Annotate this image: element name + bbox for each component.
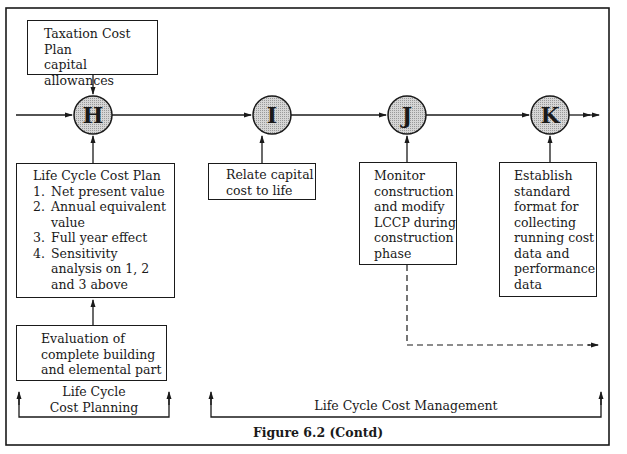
box-line: Monitor (374, 168, 456, 184)
box-line: and elemental part (41, 362, 166, 378)
lccp-item: 3.Full year effect (33, 230, 168, 246)
lccp-list: 1.Net present value 2.Annual equivalent … (33, 184, 168, 293)
lccp-title: Life Cycle Cost Plan (33, 168, 168, 184)
evaluation-box: Evaluation of complete building and elem… (16, 325, 167, 381)
lccp-item: 1.Net present value (33, 184, 168, 200)
cost-planning-label: Life Cycle Cost Planning (19, 384, 169, 415)
node-h-label: H (74, 96, 112, 134)
box-line: Taxation Cost (44, 26, 157, 42)
cost-management-label: Life Cycle Cost Management (211, 398, 601, 414)
node-k-label: K (531, 96, 569, 134)
box-line: Establish (514, 168, 596, 184)
box-line: construction (374, 230, 456, 246)
monitor-construction-box: Monitor construction and modify LCCP dur… (359, 162, 457, 265)
box-line: and modify (374, 199, 456, 215)
node-i-label: I (253, 96, 291, 134)
lccp-item: 2.Annual equivalent value (33, 199, 168, 230)
box-line: data and (514, 246, 596, 262)
box-line: Plan (44, 42, 157, 58)
taxation-cost-plan-box: Taxation Cost Plan capital allowances (27, 20, 158, 75)
box-line: data (514, 277, 596, 293)
box-line: performance (514, 261, 596, 277)
box-line: phase (374, 246, 456, 262)
life-cycle-cost-plan-box: Life Cycle Cost Plan 1.Net present value… (16, 163, 175, 298)
box-line: standard (514, 184, 596, 200)
node-j-label: J (388, 96, 426, 134)
box-line: cost to life (226, 183, 315, 199)
box-line: complete building (41, 347, 166, 363)
box-line: running cost (514, 230, 596, 246)
establish-format-box: Establish standard format for collecting… (499, 162, 597, 297)
box-line: capital allowances (44, 57, 157, 88)
box-line: collecting (514, 215, 596, 231)
box-line: Evaluation of (41, 331, 166, 347)
box-line: cycle plan (226, 198, 315, 200)
relate-capital-cost-box: Relate capital cost to life cycle plan (208, 163, 316, 200)
diagram-canvas: H I J K Taxation Cost Plan capital allow… (0, 0, 627, 454)
box-line: Relate capital (226, 167, 315, 183)
box-line: LCCP during (374, 215, 456, 231)
box-line: format for (514, 199, 596, 215)
lccp-item: 4.Sensitivity analysis on 1, 2 and 3 abo… (33, 246, 168, 293)
figure-caption: Figure 6.2 (Contd) (253, 425, 383, 440)
box-line: construction (374, 184, 456, 200)
